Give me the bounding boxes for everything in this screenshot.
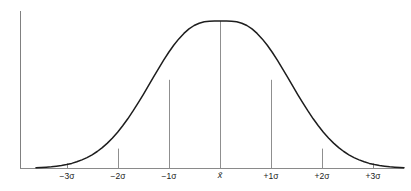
tick-label-minus-2-sigma: −2σ <box>110 171 125 181</box>
tick-label-plus-2-sigma: +2σ <box>314 171 329 181</box>
ordinate-lines <box>119 21 323 169</box>
bell-curve-plot <box>0 0 411 191</box>
tick-label-minus-1-sigma: −1σ <box>161 171 176 181</box>
tick-label-mean: x̄ <box>218 170 223 180</box>
tick-label-minus-3-sigma: −3σ <box>59 171 74 181</box>
tick-label-plus-1-sigma: +1σ <box>263 171 278 181</box>
normal-distribution-figure: −3σ −2σ −1σ x̄ +1σ +2σ +3σ <box>0 0 411 191</box>
tick-label-plus-3-sigma: +3σ <box>365 171 380 181</box>
